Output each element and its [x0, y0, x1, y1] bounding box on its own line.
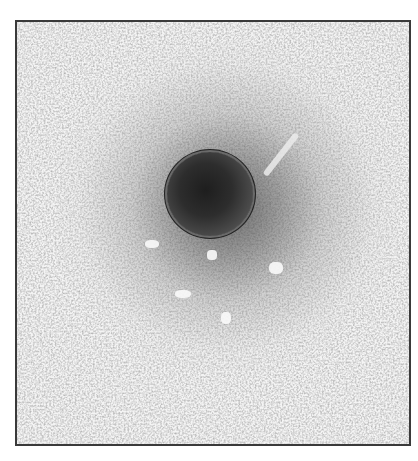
- bright-spot: [145, 240, 159, 248]
- bright-spot: [175, 290, 191, 298]
- virus-particle: [167, 152, 253, 236]
- bright-spot: [207, 250, 217, 260]
- bright-spot: [221, 312, 231, 324]
- micrograph-frame: [15, 20, 411, 446]
- bright-spot: [269, 262, 283, 274]
